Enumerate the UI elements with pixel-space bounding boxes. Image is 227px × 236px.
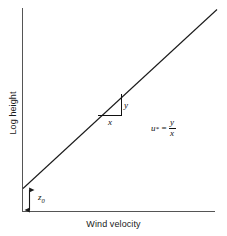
slope-rise-label: y (124, 100, 128, 110)
formula-fraction: y x (169, 118, 176, 139)
y-axis-label: Log height (8, 73, 18, 153)
plot-canvas (0, 0, 227, 236)
formula-subscript: * (156, 126, 160, 133)
roughness-length-subscript: 0 (42, 197, 45, 204)
formula-equals-sign: = (162, 124, 167, 133)
x-axis-label: Wind velocity (0, 219, 227, 229)
slope-run-label: x (108, 117, 112, 127)
formula-denominator: x (169, 129, 175, 138)
friction-velocity-formula: u* = y x (151, 118, 176, 139)
log-wind-profile-figure: Wind velocity Log height y x z0 u* = y x (0, 0, 227, 236)
formula-numerator: y (169, 118, 175, 127)
roughness-length-label: z0 (38, 192, 45, 204)
wind-profile-line (23, 10, 217, 189)
